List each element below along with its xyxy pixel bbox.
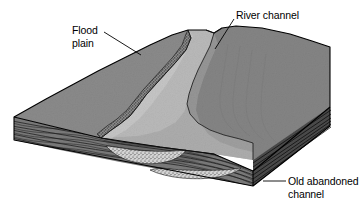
block-diagram-figure: Flood plain River channel Old abandoned … <box>0 0 362 218</box>
label-old-abandoned-channel: Old abandoned channel <box>288 175 359 200</box>
label-river-channel: River channel <box>236 9 299 22</box>
label-flood-plain: Flood plain <box>72 24 98 49</box>
